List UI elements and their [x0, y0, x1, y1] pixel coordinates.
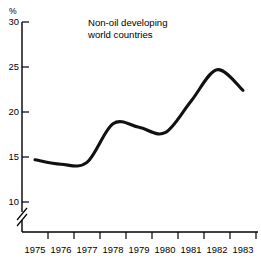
x-tick-label-1975: 1975	[25, 244, 46, 255]
x-tick-label-1976: 1976	[51, 244, 72, 255]
y-tick-label-15: 15	[9, 151, 19, 162]
chart-title-line-2: world countries	[87, 29, 153, 40]
data-series-line	[35, 70, 243, 167]
x-axis-ticks	[48, 232, 256, 239]
y-tick-label-20: 20	[9, 106, 19, 117]
x-tick-label-1981: 1981	[181, 244, 202, 255]
chart-title-line-1: Non-oil developing	[88, 17, 167, 28]
x-tick-label-1982: 1982	[207, 244, 228, 255]
y-tick-label-10: 10	[9, 196, 19, 207]
y-tick-label-30: 30	[9, 16, 19, 27]
x-tick-label-1983: 1983	[233, 244, 254, 255]
x-tick-label-1977: 1977	[77, 244, 98, 255]
y-axis-unit-label: %	[9, 6, 17, 16]
y-axis-ticks	[22, 22, 29, 202]
chart-container: % Non-oil developing world countries 30 …	[0, 0, 261, 261]
line-chart: % Non-oil developing world countries 30 …	[0, 0, 261, 261]
x-tick-label-1980: 1980	[155, 244, 176, 255]
x-tick-label-1979: 1979	[129, 244, 150, 255]
x-tick-label-1978: 1978	[103, 244, 124, 255]
y-tick-label-25: 25	[9, 61, 19, 72]
